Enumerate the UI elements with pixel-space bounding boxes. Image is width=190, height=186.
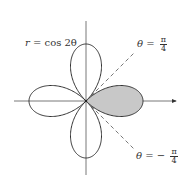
fraction: π 4 (170, 148, 177, 165)
fraction-denominator: 4 (171, 157, 176, 165)
sign: − (157, 150, 165, 161)
equals-sign: = (146, 38, 154, 49)
label-theta-pi-over-4: θ = π 4 (137, 36, 167, 53)
theta-symbol: θ (137, 38, 143, 49)
equation-lhs: r (25, 37, 30, 48)
equation-rhs: = cos 2θ (33, 37, 77, 48)
origin-point (85, 100, 88, 103)
fraction: π 4 (160, 36, 167, 53)
fraction-denominator: 4 (161, 45, 166, 53)
label-theta-neg-pi-over-4: θ = − π 4 (136, 148, 178, 165)
equals-sign: = (145, 150, 153, 161)
equation-label: r = cos 2θ (25, 37, 77, 48)
theta-symbol: θ (136, 150, 142, 161)
